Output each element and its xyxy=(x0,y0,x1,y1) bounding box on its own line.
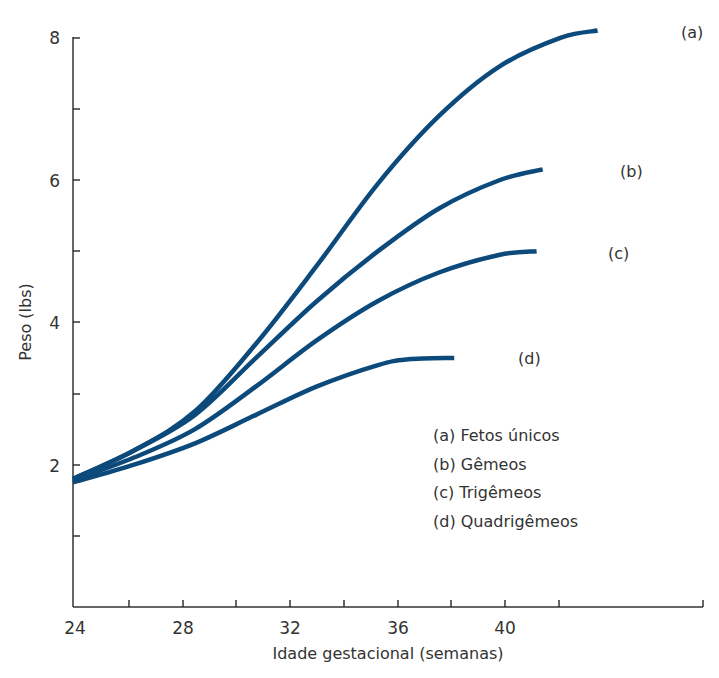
legend-entry-a: (a) Fetos únicos xyxy=(433,426,560,445)
x-axis-title: Idade gestacional (semanas) xyxy=(272,644,503,663)
y-tick-label-4: 4 xyxy=(49,313,60,333)
legend-entry-b: (b) Gêmeos xyxy=(433,455,527,474)
y-axis xyxy=(73,37,80,607)
x-tick-label-32: 32 xyxy=(279,618,301,638)
series-label-a: (a) xyxy=(681,23,703,42)
legend-entry-c: (c) Trigêmeos xyxy=(433,483,541,502)
y-tick-label-6: 6 xyxy=(49,171,60,191)
series-lines xyxy=(73,31,598,483)
y-tick-label-8: 8 xyxy=(49,28,60,48)
series-line-d xyxy=(73,358,454,483)
x-tick-label-28: 28 xyxy=(172,618,194,638)
x-tick-label-36: 36 xyxy=(387,618,409,638)
series-label-c: (c) xyxy=(608,244,629,263)
legend-entry-d: (d) Quadrigêmeos xyxy=(433,512,578,531)
y-axis-title: Peso (lbs) xyxy=(16,283,35,361)
x-tick-label-24: 24 xyxy=(64,618,86,638)
legend: (a) Fetos únicos (b) Gêmeos (c) Trigêmeo… xyxy=(433,426,578,531)
series-line-a xyxy=(73,31,598,479)
growth-chart: 8 6 4 2 24 28 32 36 40 Idade gestacional… xyxy=(0,0,719,678)
series-label-b: (b) xyxy=(620,162,643,181)
y-tick-label-2: 2 xyxy=(49,456,60,476)
series-label-d: (d) xyxy=(518,349,541,368)
x-tick-label-40: 40 xyxy=(494,618,516,638)
x-axis xyxy=(73,600,703,607)
